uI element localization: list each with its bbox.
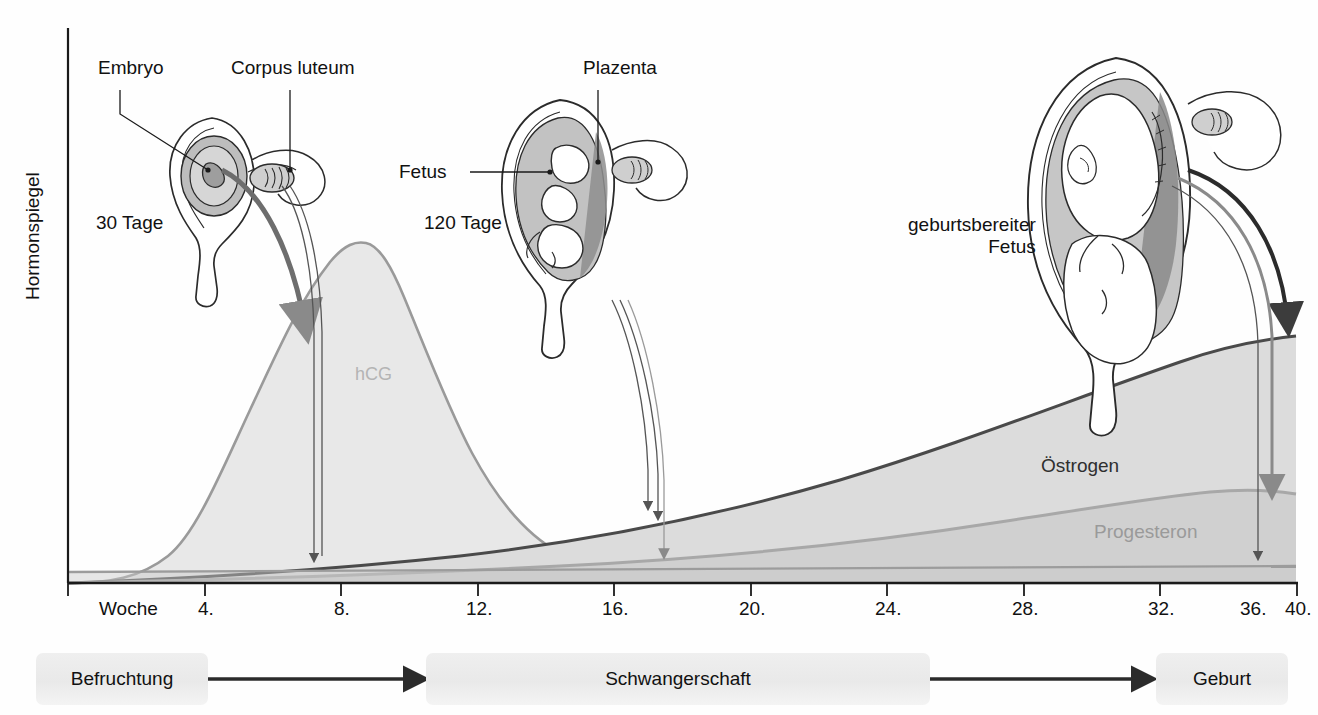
arrow-fetus-to-oestrogen [1188,170,1288,326]
x-tick-label-32: 32. [1148,598,1174,620]
x-tick-label-4: 4. [198,598,214,620]
x-tick-label-12: 12. [466,598,492,620]
uterus-fetus-illustration [502,100,687,358]
process-step-geburt-label: Geburt [1193,668,1251,690]
x-tick-label-16: 16. [602,598,628,620]
process-step-schwangerschaft[interactable]: Schwangerschaft [426,653,930,705]
label-embryo: Embryo [98,57,163,79]
uterus-embryo-illustration [170,118,325,307]
label-hcg: hCG [355,364,392,385]
label-plazenta: Plazenta [583,57,657,79]
x-axis-week-prefix: Woche [99,598,158,620]
label-geburtsbereiter-fetus-line2: Fetus [988,236,1036,257]
arrows-plazenta-to-curves [612,300,664,556]
x-tick-label-40: 40. [1285,598,1311,620]
label-oestrogen: Östrogen [1041,455,1119,477]
x-tick-label-8: 8. [334,598,350,620]
process-step-befruchtung[interactable]: Befruchtung [36,653,208,705]
y-axis-title-text: Hormonspiegel [22,172,43,300]
pregnancy-hormone-diagram: Hormonspiegel Embryo Corpus luteum 30 Ta… [0,0,1318,715]
label-fetus: Fetus [399,161,447,183]
x-axis-ticks [68,583,1297,596]
label-30-tage: 30 Tage [96,212,163,234]
x-tick-label-28: 28. [1012,598,1038,620]
label-geburtsbereiter-fetus-line1: geburtsbereiter [908,214,1036,235]
label-120-tage: 120 Tage [424,212,502,234]
label-corpus-luteum: Corpus luteum [231,57,355,79]
x-tick-label-24: 24. [875,598,901,620]
y-axis-title: Hormonspiegel [22,60,44,300]
process-step-befruchtung-label: Befruchtung [71,668,173,690]
process-step-schwangerschaft-label: Schwangerschaft [605,668,751,690]
label-progesteron: Progesteron [1094,521,1198,543]
x-tick-label-36: 36. [1240,598,1266,620]
process-step-geburt[interactable]: Geburt [1156,653,1288,705]
label-geburtsbereiter-fetus: geburtsbereiterFetus [908,214,1036,259]
x-tick-label-20: 20. [739,598,765,620]
